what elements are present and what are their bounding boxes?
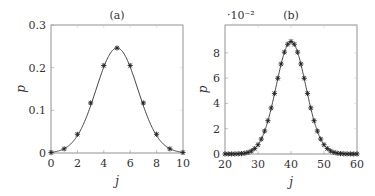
marker-a [141,100,146,105]
marker-a [114,45,119,50]
chart-title: (b) [283,9,299,22]
y-tick-label: 8 [213,47,220,60]
x-tick-label: 4 [100,157,107,170]
x-tick-label: 20 [218,158,232,171]
marker-b [288,39,293,44]
plot-frame [51,25,183,153]
marker-a [128,63,133,68]
marker-b [298,61,303,66]
marker-b [255,142,260,147]
x-axis-label: j [112,174,119,188]
x-tick-label: 40 [284,158,298,171]
y-tick-label: 4 [213,97,220,110]
x-tick-label: 2 [74,157,81,170]
x-tick-label: 60 [350,158,364,171]
y-axis-label: p [196,85,210,93]
marker-b [285,42,290,47]
x-tick-label: 8 [153,157,160,170]
marker-a [180,150,185,155]
marker-b [272,91,277,96]
marker-b [292,42,297,47]
x-tick-label: 6 [127,157,134,170]
marker-b [262,128,267,133]
marker-b [315,128,320,133]
marker-a [75,132,80,137]
marker-b [354,151,359,156]
marker-b [305,91,310,96]
y-tick-label: 0.3 [29,19,47,32]
marker-a [101,63,106,68]
marker-b [265,118,270,123]
x-tick-label: 50 [317,158,331,171]
y-tick-label: 2 [213,123,220,136]
marker-a [167,146,172,151]
plot-frame [225,25,357,154]
marker-b [259,136,264,141]
marker-a [62,146,67,151]
y-tick-label: 0 [39,147,46,160]
chart-title: (a) [109,9,124,22]
y-tick-label: 0.2 [29,62,47,75]
x-tick-label: 0 [48,157,55,170]
y-tick-label: 6 [213,72,220,85]
marker-b [318,136,323,141]
x-tick-label: 10 [176,157,190,170]
marker-a [154,132,159,137]
y-tick-label: 0 [213,148,220,161]
y-axis-label: p [14,85,28,93]
marker-b [282,50,287,55]
curve-a [51,48,183,152]
marker-b [308,105,313,110]
x-axis-label: j [286,175,293,189]
marker-b [312,118,317,123]
marker-a [48,150,53,155]
marker-b [279,61,284,66]
marker-b [302,76,307,81]
curve-b [225,42,357,154]
y-multiplier: ·10⁻² [227,9,255,22]
marker-b [269,105,274,110]
marker-b [249,148,254,153]
chart-canvas: 024681000.10.20.3(a)jp203040506002468(b)… [0,0,375,196]
marker-a [88,100,93,105]
marker-b [295,50,300,55]
y-tick-label: 0.1 [29,104,47,117]
marker-b [325,146,330,151]
x-tick-label: 30 [251,158,265,171]
marker-b [275,76,280,81]
